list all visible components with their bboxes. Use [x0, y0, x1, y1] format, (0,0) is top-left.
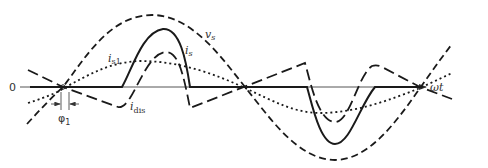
vs-label: vs [205, 28, 215, 42]
phi1-main: φ [58, 112, 65, 125]
phi1-sub: 1 [65, 118, 70, 127]
curve-is [30, 29, 420, 144]
phi1-label: φ1 [58, 112, 70, 127]
idis-label: idis [130, 100, 145, 115]
origin-label: 0 [9, 81, 16, 94]
is-label: is [185, 44, 193, 58]
is1-label: is1 [108, 52, 121, 66]
waveform-diagram: 0 ωt φ1 vs is is1 idis [0, 0, 488, 168]
